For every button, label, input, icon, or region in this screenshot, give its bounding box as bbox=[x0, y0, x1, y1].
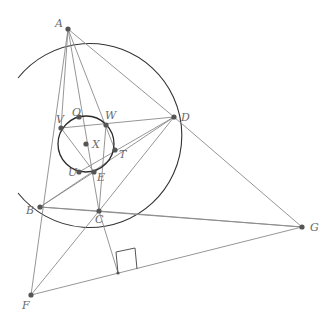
label-C: C bbox=[95, 213, 104, 226]
point-W bbox=[103, 122, 108, 127]
point-V bbox=[58, 125, 63, 130]
point-G bbox=[299, 224, 304, 229]
label-F: F bbox=[21, 299, 30, 312]
points bbox=[28, 26, 304, 297]
point-T bbox=[112, 147, 117, 152]
segment-BE bbox=[40, 172, 94, 207]
label-A: A bbox=[54, 17, 63, 30]
label-V: V bbox=[56, 113, 65, 126]
construction-lines bbox=[31, 29, 302, 295]
label-G: G bbox=[310, 221, 319, 234]
label-O: O bbox=[72, 106, 81, 119]
segment-AT bbox=[68, 29, 115, 150]
label-T: T bbox=[119, 148, 128, 161]
segment-AF bbox=[31, 29, 68, 295]
point-F bbox=[28, 292, 33, 297]
label-U: U bbox=[68, 166, 78, 179]
label-W: W bbox=[105, 109, 118, 122]
segment-DG bbox=[174, 117, 302, 227]
geometry-diagram: ADBCGFXVOWTUE bbox=[0, 0, 335, 325]
point-X bbox=[83, 141, 88, 146]
point-A bbox=[65, 26, 70, 31]
point-E bbox=[91, 169, 96, 174]
segment-FG bbox=[31, 227, 302, 295]
label-D: D bbox=[180, 111, 190, 124]
point-D bbox=[171, 114, 176, 119]
label-E: E bbox=[96, 171, 105, 184]
segment-AD bbox=[68, 29, 174, 117]
point-B bbox=[37, 204, 42, 209]
label-B: B bbox=[25, 204, 34, 217]
foot-point bbox=[116, 271, 119, 274]
label-X: X bbox=[91, 138, 101, 151]
